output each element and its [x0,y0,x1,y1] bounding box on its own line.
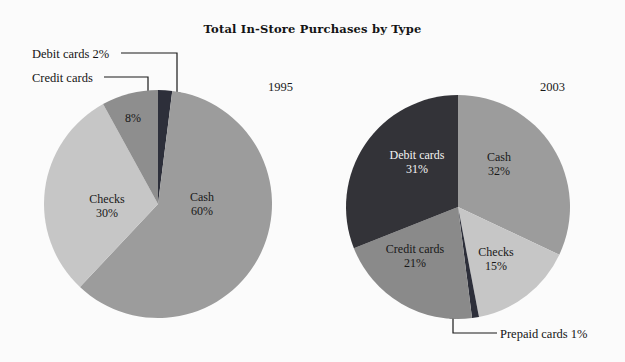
chart-figure: Total In-Store Purchases by Type 1995 De… [0,0,625,362]
pie-chart-2003: Cash 32% Checks 15% Credit cards 21% Deb… [344,93,572,321]
pie-svg-2003 [344,93,572,321]
